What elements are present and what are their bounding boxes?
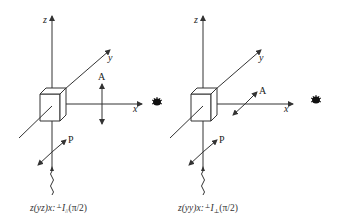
- crystal-sample: [191, 88, 217, 121]
- wave-arrowhead: [201, 166, 205, 171]
- incident-axis-line: [19, 106, 52, 138]
- caption-perpendicular: z(yy)x:⊥I⊥(π/2): [177, 203, 238, 214]
- polarization-label: P: [219, 134, 225, 145]
- eye-icon: [152, 97, 162, 106]
- y-axis-label: y: [107, 52, 113, 63]
- analyzer-arrow: [245, 92, 257, 104]
- polarization-arrow: [52, 140, 66, 152]
- y-axis: [216, 50, 261, 89]
- crystal-sample: [40, 88, 66, 121]
- incident-axis-line: [170, 106, 203, 138]
- eye-icon: [311, 95, 321, 104]
- z-axis-label: z: [193, 14, 198, 25]
- x-axis-label: x: [132, 103, 138, 114]
- polarization-arrow-lower: [189, 152, 203, 165]
- laser-wave: [202, 168, 205, 195]
- y-axis-label: y: [258, 52, 264, 63]
- wave-arrowhead: [50, 166, 54, 171]
- analyzer-arrow-lower: [233, 104, 245, 115]
- analyzer-label: A: [98, 71, 106, 82]
- caption-parallel: z(yz)x:⊥I//(π/2): [29, 203, 87, 214]
- analyzer-label: A: [259, 85, 267, 96]
- panel-perpendicular: z y x A P z(yy)x:⊥I⊥(π/2): [170, 14, 321, 214]
- polarization-label: P: [68, 134, 74, 145]
- polarization-arrow: [203, 140, 217, 152]
- panel-parallel: z y x A P z: [19, 14, 162, 214]
- polarization-arrow-lower: [38, 152, 52, 165]
- raman-scattering-geometry-diagram: z y x A P z: [0, 0, 338, 224]
- z-axis-label: z: [42, 14, 47, 25]
- x-axis-label: x: [283, 103, 289, 114]
- laser-wave: [51, 168, 54, 195]
- y-axis: [65, 50, 110, 89]
